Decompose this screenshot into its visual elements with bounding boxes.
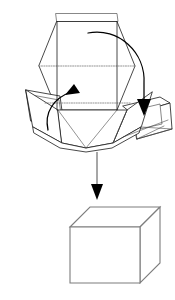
step-closed-cube: [70, 207, 160, 283]
assembly-transition-arrow: [91, 152, 103, 200]
transition-arrowhead: [91, 184, 103, 200]
box-folding-diagram: Box folding assembly diagram Partially f…: [0, 0, 175, 300]
diagram-canvas: [0, 0, 175, 300]
step-open-box: [26, 14, 172, 153]
cube-front-face: [70, 227, 140, 283]
top-flap-strip: [56, 14, 118, 22]
